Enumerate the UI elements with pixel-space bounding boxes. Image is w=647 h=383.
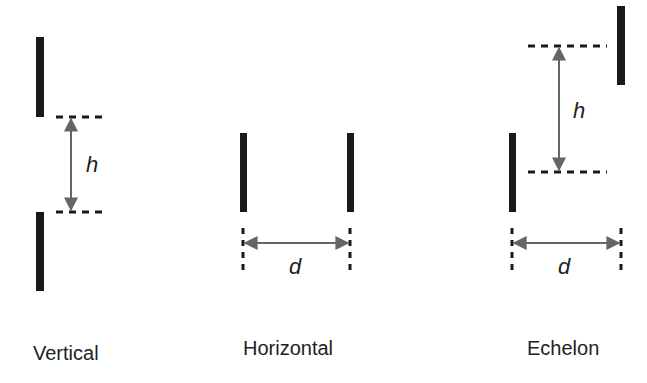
upper-right-element-bar — [617, 6, 625, 85]
vertical-label: Vertical — [33, 343, 99, 363]
horizontal-d-symbol: d — [289, 256, 301, 278]
left-element-bar — [240, 133, 247, 212]
horizontal-label: Horizontal — [243, 338, 333, 358]
echelon-h-symbol: h — [573, 100, 585, 122]
echelon-label: Echelon — [527, 338, 599, 358]
vertical-h-symbol: h — [86, 154, 98, 176]
right-element-bar — [347, 133, 354, 212]
lower-left-element-bar — [509, 133, 516, 212]
echelon-d-symbol: d — [558, 256, 570, 278]
top-element-bar — [36, 37, 44, 117]
panel-echelon — [509, 6, 625, 276]
arrangement-diagram: h d h d Vertical Horizontal Echelon — [0, 0, 647, 383]
diagram-canvas — [0, 0, 647, 383]
bottom-element-bar — [36, 212, 44, 291]
